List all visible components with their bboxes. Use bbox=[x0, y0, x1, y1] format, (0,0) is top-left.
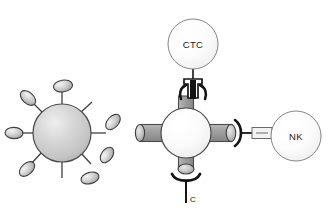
free-ligand bbox=[97, 145, 116, 165]
nk-linker-group bbox=[235, 120, 272, 146]
arm-cap-left bbox=[135, 125, 144, 142]
arm-cap-bottom bbox=[178, 164, 194, 174]
schematic-diagram: CTC NK C bbox=[0, 0, 334, 222]
virus-particle-group bbox=[5, 79, 123, 186]
free-ligand bbox=[80, 170, 101, 186]
figure-container: CTC NK C bbox=[0, 0, 334, 222]
c-bracket bbox=[172, 174, 200, 181]
spike-cap bbox=[5, 127, 23, 139]
c-linker-group: C bbox=[172, 174, 200, 204]
spike-cap bbox=[53, 79, 74, 94]
ctc-cell-label: CTC bbox=[183, 39, 204, 50]
nk-cell[interactable]: NK bbox=[271, 111, 321, 161]
c-linker-label: C bbox=[190, 195, 196, 204]
nanoparticle-conjugate-group: CTC NK C bbox=[135, 19, 321, 204]
virus-body bbox=[33, 104, 91, 162]
arm-cap-right bbox=[226, 124, 236, 141]
free-ligand bbox=[103, 112, 123, 133]
ctc-cell[interactable]: CTC bbox=[168, 19, 218, 69]
ctc-clamp-bar bbox=[190, 80, 196, 99]
nk-cell-label: NK bbox=[289, 131, 303, 142]
spike-cap bbox=[17, 159, 38, 179]
ctc-hook-right bbox=[200, 85, 206, 99]
nanoparticle-hub bbox=[161, 108, 211, 158]
ctc-linker-group bbox=[180, 69, 206, 99]
